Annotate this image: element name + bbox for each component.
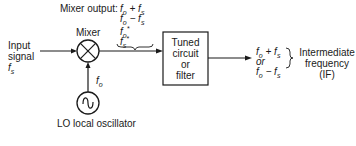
sine-wave-icon [83,98,93,108]
mixer-output-fs: fs* [120,33,129,51]
filter-label: Tuned circuit or filter [163,37,208,81]
if-label-line-2: frequency [297,58,356,69]
filter-line-1: Tuned [163,37,208,48]
input-freq-label: fs [8,62,14,77]
filter-input-arrowhead [156,49,163,54]
lo-label: LO local oscillator [57,118,136,129]
input-label-signal: signal [8,51,34,62]
input-arrowhead [71,49,77,54]
if-label-line-3: (IF) [297,69,356,80]
mixer-label: Mixer [76,27,100,38]
mixer-output-label: Mixer output: [60,3,118,14]
filter-line-2: circuit [163,48,208,59]
filter-line-3: or [163,59,208,70]
lo-freq-label: fo [96,75,103,90]
if-brace [286,48,293,68]
if-label-line-1: Intermediate [297,47,356,58]
result-diff: fo − fs [256,66,280,81]
if-label: Intermediate frequency (IF) [297,47,356,80]
output-arrowhead [245,56,252,61]
lo-arrowhead [86,62,91,68]
input-label: Input [8,40,30,51]
filter-line-4: filter [163,70,208,81]
